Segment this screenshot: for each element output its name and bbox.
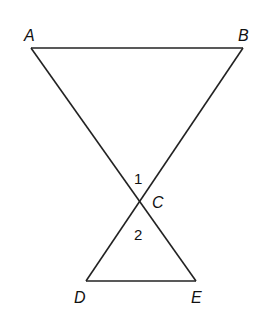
angle-label-2: 2 xyxy=(134,226,142,243)
point-label-B: B xyxy=(238,27,249,44)
angle-label-1: 1 xyxy=(134,170,142,187)
segment-BD xyxy=(86,48,243,281)
point-label-A: A xyxy=(23,27,35,44)
point-label-E: E xyxy=(191,289,202,306)
point-label-D: D xyxy=(74,289,86,306)
segment-AE xyxy=(31,48,196,281)
point-label-C: C xyxy=(152,194,164,211)
geometry-diagram: A B C D E 1 2 xyxy=(0,0,261,327)
